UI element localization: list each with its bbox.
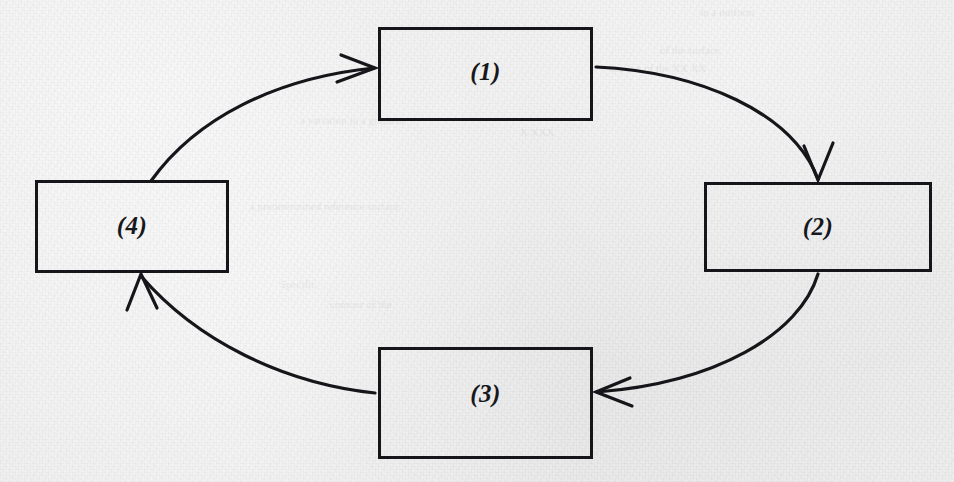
arrow-3-to-4 bbox=[127, 274, 375, 393]
box-1[interactable]: (1) bbox=[378, 27, 593, 121]
arrow-3-to-4-head bbox=[127, 274, 157, 310]
arrow-1-to-2 bbox=[596, 67, 833, 180]
arrow-1-to-2-curve bbox=[596, 67, 818, 179]
box-4-label: (4) bbox=[38, 212, 226, 240]
box-1-label: (1) bbox=[381, 58, 590, 86]
arrow-2-to-3 bbox=[596, 274, 818, 406]
arrow-4-to-1 bbox=[151, 55, 375, 181]
arrow-2-to-3-curve bbox=[597, 274, 818, 392]
arrow-4-to-1-curve bbox=[151, 68, 374, 181]
arrow-3-to-4-curve bbox=[141, 276, 375, 393]
box-2-label: (2) bbox=[707, 213, 929, 241]
box-2[interactable]: (2) bbox=[704, 182, 932, 272]
box-3[interactable]: (3) bbox=[378, 347, 593, 459]
diagram-page: in a uniform of the surface section of t… bbox=[0, 0, 954, 482]
box-3-label: (3) bbox=[381, 380, 590, 408]
box-4[interactable]: (4) bbox=[35, 180, 229, 273]
arrow-4-to-1-head bbox=[337, 55, 375, 82]
